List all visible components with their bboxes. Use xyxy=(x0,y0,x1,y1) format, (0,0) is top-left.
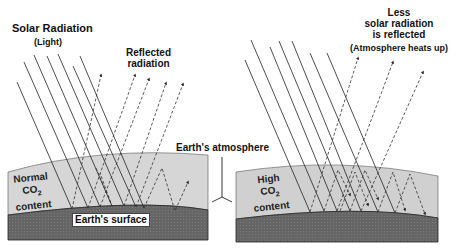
note-line1: Less xyxy=(350,7,448,18)
co2-subscript: 2 xyxy=(37,189,42,196)
solar-radiation-label: Solar Radiation xyxy=(12,22,93,34)
atmosphere-pointer xyxy=(212,157,232,202)
earths-atmosphere-label: Earth's atmosphere xyxy=(176,142,269,153)
right-ground xyxy=(236,211,438,242)
high-co2-label: High CO2 content xyxy=(250,171,290,215)
co2-formula: CO xyxy=(260,184,276,197)
solar-radiation-title: Solar Radiation xyxy=(12,23,93,34)
less-reflected-note: Less solar radiation is reflected (Atmos… xyxy=(350,7,448,54)
earths-surface-label: Earth's surface xyxy=(72,213,150,227)
normal-co2-label: Normal CO2 content xyxy=(12,170,52,214)
solar-radiation-subtitle: (Light) xyxy=(34,37,62,48)
reflected-label-line2: radiation xyxy=(126,58,171,69)
reflected-radiation-label: Reflected radiation xyxy=(126,47,171,69)
note-line2: solar radiation xyxy=(350,18,448,29)
co2-formula: CO xyxy=(22,183,38,196)
atmosphere-heats-up-note: (Atmosphere heats up) xyxy=(350,43,448,54)
reflected-label-line1: Reflected xyxy=(126,47,171,58)
co2-subscript: 2 xyxy=(275,190,280,197)
note-line3: is reflected xyxy=(350,29,448,40)
